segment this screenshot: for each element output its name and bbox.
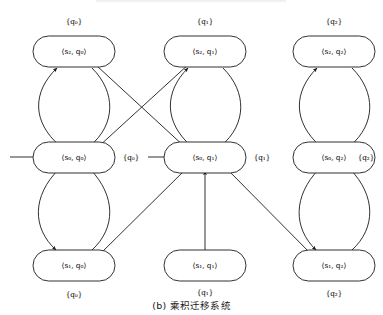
node-s2q0[interactable]: ⟨s₂, q₀⟩ bbox=[33, 36, 115, 67]
node-s2q1-label: ⟨s₂, q₁⟩ bbox=[193, 47, 218, 56]
node-s0q0-prop: {q₀} bbox=[123, 153, 140, 162]
figure-container: ⟨s₂, q₀⟩ {q₀} ⟨s₀, q₀⟩ {q₀} ⟨s₁, q₀⟩ {q₀… bbox=[0, 0, 383, 315]
node-s2q1-prop: {q₁} bbox=[197, 17, 214, 26]
node-s0q2-prop: {q₂} bbox=[358, 153, 375, 162]
edge-s2q1-to-s0q1 bbox=[221, 68, 241, 146]
node-s2q0-prop: {q₀} bbox=[66, 17, 83, 26]
edge-s0q1-to-s2q1 bbox=[170, 68, 191, 146]
edge-s0q0-to-s1q0 bbox=[38, 169, 59, 250]
node-s2q2[interactable]: ⟨s₂, q₂⟩ bbox=[293, 36, 375, 67]
node-s0q1-label: ⟨s₀, q₁⟩ bbox=[193, 153, 218, 162]
node-s1q0-label: ⟨s₁, q₀⟩ bbox=[62, 261, 87, 270]
node-s1q1[interactable]: ⟨s₁, q₁⟩ bbox=[164, 250, 246, 281]
node-s1q1-label: ⟨s₁, q₁⟩ bbox=[193, 261, 218, 270]
product-transition-system-diagram: ⟨s₂, q₀⟩ {q₀} ⟨s₀, q₀⟩ {q₀} ⟨s₁, q₀⟩ {q₀… bbox=[0, 0, 383, 315]
node-s0q2-label: ⟨s₀, q₂⟩ bbox=[322, 153, 347, 162]
node-s2q2-prop: {q₂} bbox=[326, 17, 343, 26]
node-s1q2-label: ⟨s₁, q₂⟩ bbox=[322, 261, 347, 270]
edge-s2q0-to-s0q0 bbox=[90, 68, 110, 146]
figure-caption: (b) 乘积迁移系统 bbox=[0, 298, 383, 312]
node-s1q2-prop: {q₂} bbox=[326, 289, 343, 298]
node-s1q1-prop: {q₁} bbox=[197, 288, 214, 297]
node-s2q2-label: ⟨s₂, q₂⟩ bbox=[322, 47, 347, 56]
edge-s1q0-to-s0q0 bbox=[90, 169, 110, 250]
edge-s2q2-to-s0q2 bbox=[350, 68, 370, 146]
node-s2q1[interactable]: ⟨s₂, q₁⟩ bbox=[164, 36, 246, 67]
node-s0q0-label: ⟨s₀, q₀⟩ bbox=[62, 153, 87, 162]
edge-s1q2-to-s0q2 bbox=[350, 169, 370, 250]
node-s1q2[interactable]: ⟨s₁, q₂⟩ bbox=[293, 250, 375, 281]
node-s2q0-label: ⟨s₂, q₀⟩ bbox=[62, 47, 87, 56]
node-s1q0[interactable]: ⟨s₁, q₀⟩ bbox=[33, 250, 115, 281]
edge-s0q0-to-s2q0 bbox=[39, 68, 60, 146]
edge-s0q1-to-s1q2 bbox=[226, 168, 314, 257]
node-s0q0[interactable]: ⟨s₀, q₀⟩ bbox=[33, 142, 115, 173]
edge-s0q2-to-s2q2 bbox=[299, 68, 320, 146]
node-s0q1[interactable]: ⟨s₀, q₁⟩ bbox=[164, 142, 246, 173]
node-s0q1-prop: {q₁} bbox=[254, 153, 271, 162]
edge-s0q0-to-s2q1 bbox=[97, 63, 190, 148]
edge-s0q2-to-s1q2 bbox=[299, 169, 319, 250]
